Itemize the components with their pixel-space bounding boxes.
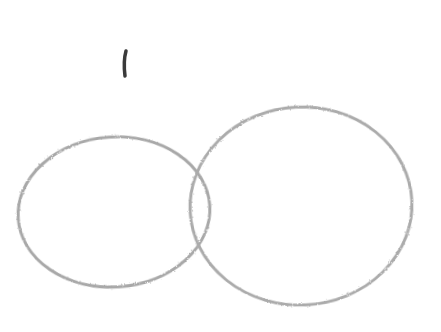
pencil-mark [124,51,126,76]
left-oval [13,130,215,293]
right-oval [185,101,417,310]
sketch-canvas [0,0,441,332]
